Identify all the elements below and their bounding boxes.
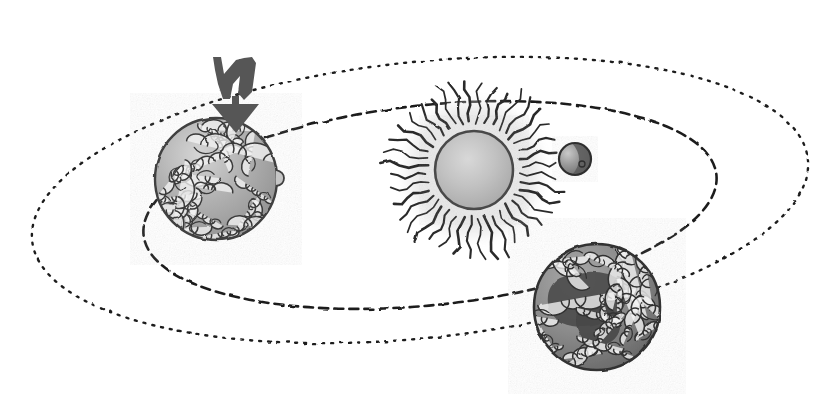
planet-right-dark (508, 209, 695, 391)
planet-left-cloudy (126, 92, 290, 278)
sun (380, 82, 564, 260)
chevron-down-icon (213, 57, 256, 100)
illustration-canvas (0, 0, 839, 394)
sun-disc (435, 131, 513, 209)
planet-inner-small (559, 143, 594, 175)
planet-left-rim-bump (276, 170, 284, 186)
solar-system-illustration (0, 0, 839, 394)
